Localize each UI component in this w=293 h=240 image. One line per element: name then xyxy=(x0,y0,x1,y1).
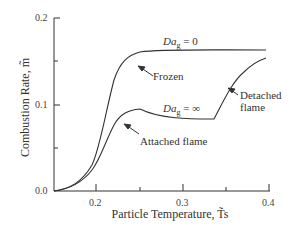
annotation-detached-flame-line2: flame xyxy=(240,101,265,113)
annotation-detached-flame-line1: Detached xyxy=(240,89,282,101)
y-tick-label: 0.2 xyxy=(35,12,48,23)
x-tick-label: 0.4 xyxy=(262,197,275,208)
x-tick-label: 0.2 xyxy=(89,197,102,208)
y-tick-label: 0.1 xyxy=(35,99,48,110)
y-axis-label: Combustion Rate, m̃ xyxy=(18,43,33,173)
plot-area xyxy=(0,0,293,240)
chart: Combustion Rate, m̃ Particle Temperature… xyxy=(0,0,293,240)
x-axis-label: Particle Temperature, T̃s xyxy=(60,207,280,222)
x-tick-label: 0.3 xyxy=(176,197,189,208)
y-tick-label: 0.0 xyxy=(35,185,48,196)
annotation-frozen: Frozen xyxy=(153,70,184,82)
annotation-dag-zero: Dag = 0 xyxy=(163,35,198,52)
annotation-dag-infinity: Dag = ∞ xyxy=(163,102,200,119)
annotation-attached-flame: Attached flame xyxy=(140,135,208,147)
